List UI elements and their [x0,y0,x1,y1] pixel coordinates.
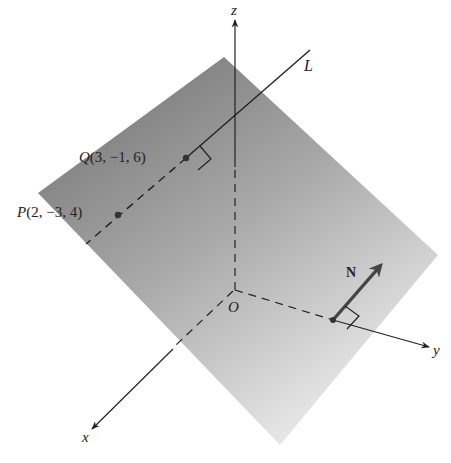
line-L-label: L [303,57,313,74]
x-axis [92,349,173,429]
point-p [115,212,121,218]
point-q [183,155,189,161]
normal-base-point [330,317,336,323]
x-axis-label: x [81,429,89,445]
origin-label: O [228,299,239,315]
plane-line-diagram: z y x O L N Q(3, −1, 6) P(2, −3, 4) [0,0,451,463]
point-p-label: P(2, −3, 4) [16,204,82,221]
y-axis-label: y [431,342,440,358]
diagram-canvas: z y x O L N Q(3, −1, 6) P(2, −3, 4) [0,0,451,463]
point-q-label: Q(3, −1, 6) [79,149,146,166]
normal-vector-label: N [346,265,356,280]
plane-surface [38,57,438,445]
z-axis-label: z [230,2,237,18]
